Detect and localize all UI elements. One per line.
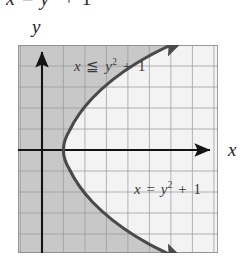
- clipped-equation-fragment: x = y2 + 1: [6, 0, 93, 10]
- equation-rhs-base: y: [161, 181, 168, 197]
- inequality-lhs: x: [74, 58, 81, 74]
- equation-rhs-exponent: 2: [168, 180, 173, 190]
- fragment-constant: 1: [82, 0, 93, 9]
- inequality-rhs-exponent: 2: [112, 57, 117, 67]
- inequality-constant: 1: [137, 58, 147, 74]
- inequality-plus: +: [122, 58, 133, 74]
- inequality-operator: ≦: [85, 58, 101, 74]
- equation-constant: 1: [192, 181, 202, 197]
- fragment-rhs-base: y: [40, 0, 50, 9]
- equation-lhs: x: [134, 181, 141, 197]
- fragment-lhs: x: [6, 0, 16, 9]
- y-axis-label: y: [32, 16, 40, 38]
- figure-container: x = y2 + 1 y x: [0, 0, 251, 278]
- equation-operator: =: [145, 181, 156, 197]
- inequality-annotation: x ≦ y2 + 1: [74, 57, 147, 75]
- equation-plus: +: [177, 181, 188, 197]
- fragment-plus: +: [63, 0, 75, 9]
- equation-annotation: x = y2 + 1: [134, 180, 202, 198]
- coordinate-plane: [18, 45, 218, 253]
- plot-body: [18, 45, 218, 253]
- x-axis-label: x: [228, 139, 236, 161]
- fragment-operator: =: [22, 0, 34, 9]
